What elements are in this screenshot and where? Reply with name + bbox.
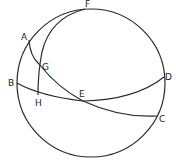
sphere-diagram: F A G B H E D C bbox=[0, 0, 176, 160]
label-H: H bbox=[35, 98, 42, 108]
label-D: D bbox=[165, 72, 172, 82]
label-C: C bbox=[159, 114, 165, 124]
label-E: E bbox=[79, 89, 85, 99]
label-A: A bbox=[21, 32, 28, 42]
label-F: F bbox=[85, 0, 90, 9]
arc-AGEC bbox=[29, 40, 157, 116]
label-G: G bbox=[42, 62, 49, 72]
arc-FGH bbox=[38, 9, 85, 95]
label-B: B bbox=[8, 78, 14, 88]
outer-circle bbox=[17, 9, 165, 157]
